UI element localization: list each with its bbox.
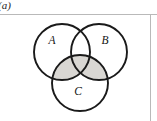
- frame-right-rule: [150, 14, 151, 121]
- set-label-a: A: [47, 34, 56, 46]
- venn-diagram: A B C: [0, 15, 150, 121]
- venn-svg: A B C: [0, 15, 150, 121]
- set-label-c: C: [74, 85, 82, 97]
- set-label-b: B: [101, 34, 108, 46]
- figure-caption: (a): [0, 0, 11, 12]
- figure-root: (a) A B: [0, 0, 157, 121]
- shaded-region-group: [34, 24, 127, 80]
